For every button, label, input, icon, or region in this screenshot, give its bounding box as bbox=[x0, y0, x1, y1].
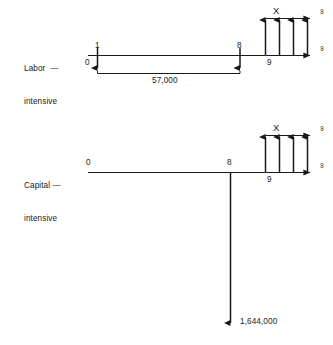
labor-infinity-bottom-label: ∞ bbox=[317, 46, 326, 51]
capital-infinity-bottom-label: ∞ bbox=[317, 163, 326, 168]
capital-inflow-x-label: X bbox=[273, 122, 279, 135]
capital-outflow-amount-label: 1,644,000 bbox=[240, 316, 277, 327]
capital-scenario-label-line2: intensive bbox=[24, 213, 61, 224]
labor-intensive-group bbox=[88, 19, 310, 74]
capital-scenario-label: Capital — intensive bbox=[24, 158, 61, 247]
labor-outflow-bracket bbox=[98, 71, 241, 74]
labor-scenario-label-line2: intensive bbox=[24, 96, 58, 107]
cash-flow-diagram: Labor — intensive 0 1 8 9 57,000 X ∞ ∞ C… bbox=[0, 0, 333, 345]
labor-infinity-top-label: ∞ bbox=[317, 9, 326, 14]
labor-inflow-x-label: X bbox=[273, 5, 279, 18]
capital-intensive-group bbox=[88, 136, 310, 324]
capital-period-8-label: 8 bbox=[227, 157, 232, 168]
figure-caption-fragment bbox=[0, 333, 333, 345]
labor-outflow-amount-label: 57,000 bbox=[152, 75, 178, 86]
labor-period-9-label: 9 bbox=[267, 57, 272, 68]
capital-infinity-top-label: ∞ bbox=[317, 126, 326, 131]
labor-period-0-label: 0 bbox=[85, 57, 90, 68]
capital-period-0-label: 0 bbox=[86, 157, 91, 168]
labor-scenario-label-line1: Labor — bbox=[24, 63, 58, 74]
labor-period-8-label: 8 bbox=[237, 40, 242, 51]
labor-period-1-label: 1 bbox=[95, 40, 100, 51]
capital-scenario-label-line1: Capital — bbox=[24, 180, 61, 191]
capital-period-9-label: 9 bbox=[267, 174, 272, 185]
labor-scenario-label: Labor — intensive bbox=[24, 41, 58, 130]
